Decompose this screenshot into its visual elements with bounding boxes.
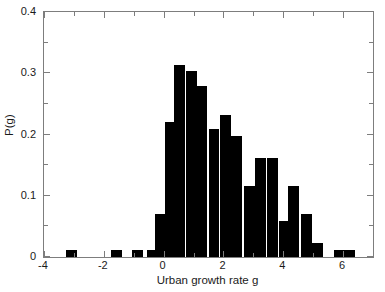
histogram-bar	[288, 186, 299, 257]
x-tick-label: 6	[322, 259, 362, 272]
y-axis-tick	[367, 195, 373, 196]
plot-area	[43, 11, 374, 258]
y-axis-tick	[367, 256, 373, 257]
histogram-bar	[244, 186, 255, 257]
x-tick-label: 0	[143, 259, 183, 272]
histogram-bar	[174, 65, 185, 257]
y-axis-tick	[44, 42, 48, 43]
y-tick-label: 0.1	[0, 190, 36, 201]
x-axis-tick	[343, 12, 344, 18]
x-axis-tick	[194, 12, 195, 16]
x-axis-tick	[164, 12, 165, 18]
histogram-bar	[197, 86, 208, 257]
x-axis-tick	[104, 12, 105, 18]
histogram-bar	[267, 158, 278, 257]
x-tick-label: 4	[262, 259, 302, 272]
y-axis-tick	[367, 72, 373, 73]
histogram-bar	[209, 129, 220, 257]
x-axis-tick	[253, 253, 254, 257]
x-axis-tick	[223, 251, 224, 257]
y-axis-tick	[369, 103, 373, 104]
histogram-bar	[231, 136, 242, 257]
y-axis-tick	[369, 42, 373, 43]
histogram-bar	[220, 115, 231, 257]
x-axis-tick	[44, 12, 45, 18]
y-axis-label: P(g)	[3, 95, 15, 155]
histogram-bar	[66, 250, 77, 257]
x-axis-tick	[313, 12, 314, 16]
x-tick-label: 2	[202, 259, 242, 272]
histogram-bar	[301, 214, 312, 257]
y-axis-tick	[44, 164, 48, 165]
x-axis-tick	[74, 12, 75, 16]
histogram-bar	[186, 71, 197, 257]
x-axis-tick	[134, 253, 135, 257]
x-axis-tick	[74, 253, 75, 257]
y-axis-tick	[367, 134, 373, 135]
x-axis-tick	[104, 251, 105, 257]
y-tick-label: 0	[0, 251, 36, 262]
y-axis-tick	[44, 72, 50, 73]
y-axis-tick	[369, 164, 373, 165]
x-axis-tick	[253, 12, 254, 16]
histogram-bar	[345, 250, 356, 257]
histogram-figure: -4-20246 00.10.20.30.4 Urban growth rate…	[0, 0, 385, 292]
x-axis-label: Urban growth rate g	[43, 274, 372, 286]
histogram-bar	[255, 158, 266, 257]
y-axis-tick	[44, 134, 50, 135]
x-tick-label: -2	[83, 259, 123, 272]
x-axis-tick	[343, 251, 344, 257]
y-tick-label: 0.4	[0, 6, 36, 17]
y-axis-tick	[44, 11, 50, 12]
histogram-bar	[111, 250, 122, 257]
y-axis-tick	[367, 11, 373, 12]
y-tick-label: 0.3	[0, 67, 36, 78]
y-axis-tick	[44, 225, 48, 226]
y-axis-tick	[44, 256, 50, 257]
y-axis-tick	[369, 225, 373, 226]
x-axis-tick	[134, 12, 135, 16]
y-axis-tick	[44, 103, 48, 104]
x-axis-tick	[283, 12, 284, 18]
bars-layer	[44, 12, 373, 257]
x-axis-tick	[283, 251, 284, 257]
x-axis-tick	[373, 12, 374, 16]
x-axis-tick	[373, 253, 374, 257]
y-axis-tick	[44, 195, 50, 196]
x-axis-tick	[194, 253, 195, 257]
x-axis-tick	[313, 253, 314, 257]
x-axis-tick	[223, 12, 224, 18]
x-axis-tick	[164, 251, 165, 257]
